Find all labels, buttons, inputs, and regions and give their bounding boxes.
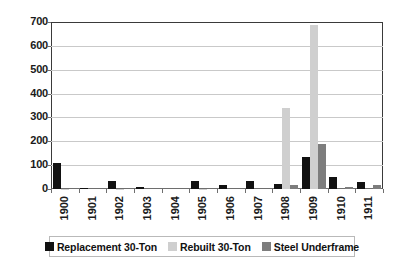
bar-group-1906 — [217, 22, 245, 189]
x-tick-mark-1902 — [106, 189, 107, 193]
bar-1907-series0 — [246, 181, 254, 189]
y-tick-label-400: 400 — [8, 88, 48, 99]
x-tick-mark-1904 — [162, 189, 163, 193]
y-tick-mark-400 — [47, 94, 51, 95]
legend-item-1[interactable]: Rebuilt 30-Ton — [168, 241, 251, 253]
y-tick-mark-500 — [47, 70, 51, 71]
x-tick-label-1902: 1902 — [114, 196, 125, 220]
bar-1902-series0 — [108, 181, 116, 189]
legend-swatch-icon-2 — [262, 242, 271, 251]
legend-label-0: Replacement 30-Ton — [57, 241, 157, 253]
bar-group-1904 — [162, 22, 190, 189]
y-tick-label-300: 300 — [8, 111, 48, 122]
legend-item-0[interactable]: Replacement 30-Ton — [45, 241, 157, 253]
y-tick-label-600: 600 — [8, 40, 48, 51]
x-tick-mark-1908 — [272, 189, 273, 193]
x-tick-label-1911: 1911 — [363, 196, 374, 220]
bar-1903-series0 — [136, 187, 144, 189]
legend-swatch-icon-1 — [168, 242, 177, 251]
bar-group-1908 — [272, 22, 300, 189]
x-tick-mark-end — [383, 189, 384, 193]
y-tick-mark-700 — [47, 22, 51, 23]
y-tick-mark-100 — [47, 165, 51, 166]
bar-1901-series0 — [80, 188, 88, 189]
bar-1909-series1 — [310, 25, 318, 189]
x-tick-label-1900: 1900 — [59, 196, 70, 220]
x-tick-label-1905: 1905 — [197, 196, 208, 220]
y-tick-label-500: 500 — [8, 64, 48, 75]
x-tick-mark-1903 — [134, 189, 135, 193]
x-tick-label-1909: 1909 — [308, 196, 319, 220]
y-tick-label-0: 0 — [8, 183, 48, 194]
x-tick-label-1903: 1903 — [142, 196, 153, 220]
x-tick-mark-1907 — [245, 189, 246, 193]
x-tick-mark-1901 — [79, 189, 80, 193]
bar-1911-series0 — [357, 182, 365, 189]
bar-group-1905 — [189, 22, 217, 189]
bar-group-1907 — [245, 22, 273, 189]
x-tick-mark-1906 — [217, 189, 218, 193]
bar-group-1900 — [51, 22, 79, 189]
x-tick-label-1907: 1907 — [253, 196, 264, 220]
bar-1906-series0 — [219, 185, 227, 189]
x-tick-mark-1909 — [300, 189, 301, 193]
y-tick-label-200: 200 — [8, 135, 48, 146]
bar-chart: 0100200300400500600700 19001901190219031… — [0, 0, 406, 267]
y-tick-mark-600 — [47, 46, 51, 47]
x-tick-label-1904: 1904 — [170, 196, 181, 220]
bar-1908-series1 — [282, 108, 290, 189]
bar-1905-series0 — [191, 181, 199, 189]
y-tick-label-100: 100 — [8, 159, 48, 170]
bar-group-1911 — [355, 22, 383, 189]
bar-1900-series0 — [53, 163, 61, 189]
legend-swatch-icon-0 — [45, 242, 54, 251]
bar-group-1910 — [328, 22, 356, 189]
y-tick-label-700: 700 — [8, 16, 48, 27]
bar-1911-series2 — [373, 185, 381, 189]
legend-label-1: Rebuilt 30-Ton — [180, 241, 251, 253]
legend-item-2[interactable]: Steel Underframe — [262, 241, 359, 253]
bar-1909-series2 — [318, 144, 326, 189]
y-tick-mark-300 — [47, 117, 51, 118]
y-tick-mark-200 — [47, 141, 51, 142]
bar-group-1902 — [106, 22, 134, 189]
bar-1908-series2 — [290, 185, 298, 189]
x-tick-mark-1911 — [355, 189, 356, 193]
bar-group-1903 — [134, 22, 162, 189]
bar-1910-series0 — [329, 177, 337, 189]
chart-legend: Replacement 30-TonRebuilt 30-TonSteel Un… — [49, 236, 355, 257]
x-tick-mark-1900 — [51, 189, 52, 193]
x-tick-label-1906: 1906 — [225, 196, 236, 220]
bar-1908-series0 — [274, 184, 282, 189]
plot-wrap — [51, 22, 383, 189]
x-tick-mark-1905 — [189, 189, 190, 193]
bar-1910-series2 — [345, 187, 353, 189]
x-tick-label-1908: 1908 — [280, 196, 291, 220]
x-tick-label-1910: 1910 — [336, 196, 347, 220]
bar-group-1909 — [300, 22, 328, 189]
x-tick-mark-1910 — [328, 189, 329, 193]
bar-group-1901 — [79, 22, 107, 189]
legend-label-2: Steel Underframe — [274, 241, 359, 253]
x-tick-label-1901: 1901 — [87, 196, 98, 220]
bar-1909-series0 — [302, 157, 310, 189]
